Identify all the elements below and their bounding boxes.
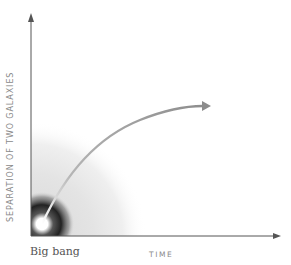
y-axis-arrow-icon [28,13,34,22]
x-axis-label: TIME [149,250,173,259]
big-bang-glow [31,120,151,236]
curve-arrow-icon [202,101,211,111]
big-bang-label: Big bang [30,245,80,258]
x-axis-arrow-icon [273,233,281,239]
y-axis-label: SEPARATION OF TWO GALAXIES [6,72,15,222]
expansion-diagram: SEPARATION OF TWO GALAXIES TIME Big bang [0,0,291,265]
diagram-graphic [0,0,291,265]
